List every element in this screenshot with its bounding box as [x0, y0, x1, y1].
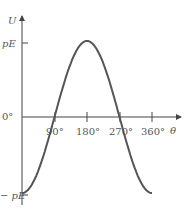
x-axis-label: θ [170, 125, 176, 136]
x-tick-90: 90° [46, 126, 64, 137]
x-tick-360: 360° [141, 126, 165, 137]
y-tick-pE: pE [2, 38, 16, 49]
y-tick-neg-pE: − pE [0, 190, 26, 201]
y-axis-label: U [8, 15, 17, 26]
x-tick-270: 270° [109, 126, 133, 137]
x-tick-180: 180° [76, 126, 100, 137]
chart: U θ pE 0° − pE 90° 180° 270° 360° [0, 0, 188, 216]
y-tick-zero: 0° [2, 111, 13, 122]
